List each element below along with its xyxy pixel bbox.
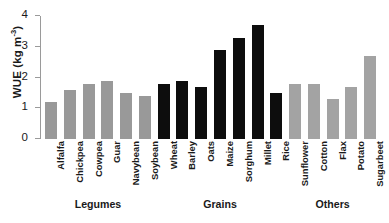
y-tick-label-1: 1 (6, 99, 28, 114)
y-tick-label-3: 3 (6, 38, 28, 53)
y-tick-0: 0 (35, 138, 40, 139)
x-label-sorghum: Sorghum (243, 141, 254, 201)
x-label-rice: Rice (280, 141, 291, 201)
group-label-others: Others (316, 198, 350, 210)
bar-series (41, 16, 385, 139)
bar-oats (195, 87, 207, 139)
plot-area: 01234 (40, 16, 385, 139)
bar-barley (176, 81, 188, 139)
x-label-wheat: Wheat (168, 141, 179, 201)
x-label-cotton: Cotton (318, 141, 329, 201)
x-label-millet: Millet (262, 141, 273, 201)
y-tick-label-4: 4 (6, 7, 28, 22)
x-label-potato: Potato (355, 141, 366, 201)
bar-rice (270, 93, 282, 139)
x-label-navybean: Navybean (130, 141, 141, 201)
bar-cotton (308, 84, 320, 139)
y-tick-label-2: 2 (6, 69, 28, 84)
bar-sorghum (233, 38, 245, 139)
x-label-sugarbeet: Sugarbeet (374, 141, 385, 201)
bar-potato (345, 87, 357, 139)
x-label-oats: Oats (205, 141, 216, 201)
bar-flax (327, 99, 339, 139)
wue-bar-chart: WUE (kg m-3) 01234 AlfalfaChickpeaCowpea… (0, 0, 389, 223)
x-label-sunflower: Sunflower (299, 141, 310, 201)
x-label-flax: Flax (337, 141, 348, 201)
bar-cowpea (83, 84, 95, 139)
x-label-cowpea: Cowpea (93, 141, 104, 201)
y-tick-4: 4 (35, 15, 40, 16)
y-tick-3: 3 (35, 46, 40, 47)
bar-sunflower (289, 84, 301, 139)
bar-maize (214, 50, 226, 139)
x-label-alfalfa: Alfalfa (55, 141, 66, 201)
x-label-chickpea: Chickpea (74, 141, 85, 201)
y-tick-2: 2 (35, 77, 40, 78)
y-tick-1: 1 (35, 107, 40, 108)
y-tick-label-0: 0 (6, 130, 28, 145)
bar-alfalfa (45, 102, 57, 139)
x-label-soybean: Soybean (149, 141, 160, 201)
bar-sugarbeet (364, 56, 376, 139)
y-axis-label-tail: ) (11, 26, 23, 30)
bar-wheat (158, 84, 170, 139)
group-label-grains: Grains (203, 198, 237, 210)
bar-chickpea (64, 90, 76, 139)
bar-millet (252, 25, 264, 139)
group-label-legumes: Legumes (75, 198, 122, 210)
x-label-maize: Maize (224, 141, 235, 201)
x-label-barley: Barley (186, 141, 197, 201)
x-axis-category-labels: AlfalfaChickpeaCowpeaGuarNavybeanSoybean… (41, 141, 385, 191)
x-label-guar: Guar (111, 141, 122, 201)
bar-soybean (139, 96, 151, 139)
bar-guar (101, 81, 113, 139)
bar-navybean (120, 93, 132, 139)
y-axis-label-exponent: -3 (9, 30, 18, 37)
